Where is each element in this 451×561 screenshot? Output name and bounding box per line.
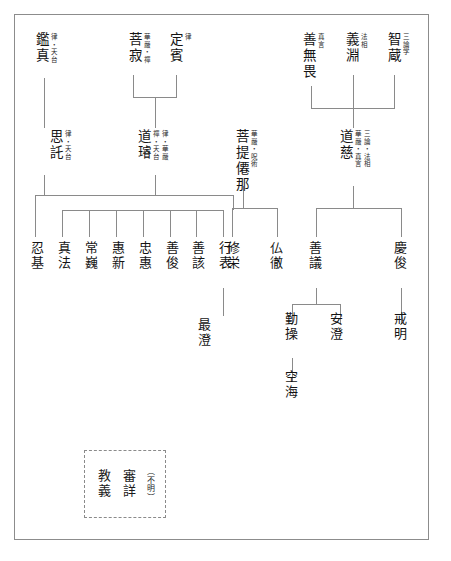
node-kaimyo: 戒明 — [392, 312, 407, 342]
drop-shuei — [232, 208, 233, 237]
node-annotations-ganjin: 律・天台 — [49, 32, 57, 63]
node-dosen: 道璿禪・天台律・華嚴 — [135, 129, 168, 161]
drop-zengi — [316, 208, 317, 237]
bus-doji — [316, 208, 401, 209]
node-annotation-bodaisenna-0: 華嚴・呪術 — [249, 130, 257, 168]
connector-bojaku-down — [133, 75, 134, 97]
bus-center-children — [62, 210, 196, 211]
node-name-jogi: 常巍 — [83, 241, 98, 271]
connector-merge-doji — [353, 108, 354, 128]
node-name-kukai: 空海 — [283, 370, 298, 400]
connector-ganjin-shitaku — [44, 78, 45, 128]
node-annotation-doji-1: 三論・法相 — [362, 130, 370, 168]
node-annotation-bojaku-0: 華嚴・禪 — [142, 33, 150, 63]
node-name-zengai: 善該 — [190, 241, 205, 271]
node-buttetsu: 仏徹 — [268, 241, 283, 271]
bus-zengai-gyohyo — [196, 210, 223, 211]
node-annotation-dosen-1: 律・華嚴 — [160, 130, 168, 160]
node-doji: 道慈華嚴・真言三論・法相 — [337, 129, 370, 168]
node-name-gien: 義淵 — [343, 32, 359, 64]
node-annotation-ganjin-0: 律・天台 — [49, 33, 57, 63]
node-bodaisenna: 菩提僊那華嚴・呪術 — [233, 129, 257, 193]
drop-buttetsu — [277, 208, 278, 237]
unknown-name-shinsho: 審詳 — [121, 469, 136, 499]
node-zengai: 善該 — [190, 241, 205, 271]
drop-zengai — [196, 210, 197, 237]
node-name-ancho: 安澄 — [328, 312, 343, 342]
node-chizo: 智蔵三論学 — [385, 32, 409, 64]
node-eshin: 惠新 — [110, 241, 125, 271]
node-shitaku: 思託律・天台 — [47, 129, 71, 161]
node-annotations-johin: 律 — [183, 32, 191, 41]
connector-doji-down — [353, 186, 354, 208]
drop-jogi — [89, 210, 90, 237]
drop-gyohyo — [223, 210, 224, 237]
diagram-page: 鑑真律・天台菩寂華嚴・禪定賓律善無畏真言義淵法相智蔵三論学思託律・天台道璿禪・天… — [0, 0, 451, 561]
node-ganjin: 鑑真律・天台 — [33, 32, 57, 64]
node-annotations-shitaku: 律・天台 — [63, 129, 71, 160]
node-name-shinpo: 真法 — [56, 241, 71, 271]
drop-keishun — [401, 208, 402, 237]
node-keishun: 慶俊 — [392, 241, 407, 271]
node-name-bodaisenna: 菩提僊那 — [233, 129, 249, 193]
bus-bodaisenna — [232, 208, 277, 209]
node-annotation-doji-0: 華嚴・真言 — [353, 130, 361, 168]
node-name-dosen: 道璿 — [135, 129, 151, 161]
node-gien: 義淵法相 — [343, 32, 367, 64]
drop-chue — [143, 210, 144, 237]
node-zenmui: 善無畏真言 — [300, 32, 324, 80]
node-annotation-shitaku-0: 律・天台 — [63, 130, 71, 160]
node-name-doji: 道慈 — [337, 129, 353, 161]
node-name-zenshun: 善俊 — [164, 241, 179, 271]
node-annotations-zenmui: 真言 — [316, 32, 324, 48]
node-gonso: 勤操 — [283, 312, 298, 342]
connector-gien-down — [353, 75, 354, 108]
node-zengi: 善議 — [307, 241, 322, 271]
node-ancho: 安澄 — [328, 312, 343, 342]
bus-zengi-children — [292, 304, 340, 305]
node-annotations-chizo: 三論学 — [401, 32, 409, 56]
node-jogi: 常巍 — [83, 241, 98, 271]
node-name-chue: 忠惠 — [137, 241, 152, 271]
node-kukai: 空海 — [283, 370, 298, 400]
node-name-ganjin: 鑑真 — [33, 32, 49, 64]
node-zenshun: 善俊 — [164, 241, 179, 271]
node-name-zengi: 善議 — [307, 241, 322, 271]
node-annotations-dosen: 禪・天台律・華嚴 — [151, 129, 168, 160]
unknown-note: （不明） — [145, 467, 155, 501]
connector-bus-ninki — [35, 195, 36, 237]
connector-merge-dosen — [155, 97, 156, 128]
node-annotation-gien-0: 法相 — [359, 33, 367, 48]
drop-eshin — [116, 210, 117, 237]
node-name-johin: 定賓 — [167, 32, 183, 64]
node-name-zenmui: 善無畏 — [300, 32, 316, 80]
node-annotation-johin-0: 律 — [183, 33, 191, 41]
node-name-kaimyo: 戒明 — [392, 312, 407, 342]
connector-johin-down — [176, 75, 177, 97]
node-annotation-dosen-0: 禪・天台 — [151, 130, 159, 160]
node-name-bojaku: 菩寂 — [126, 32, 142, 64]
node-name-eshin: 惠新 — [110, 241, 125, 271]
node-annotation-chizo-0: 三論学 — [401, 33, 409, 56]
node-shuei: 修栄 — [225, 241, 240, 271]
node-name-saicho: 最澄 — [196, 318, 211, 348]
node-annotations-bojaku: 華嚴・禪 — [142, 32, 150, 63]
node-bojaku: 菩寂華嚴・禪 — [126, 32, 150, 64]
unknown-name-kyogi: 教義 — [96, 469, 111, 499]
node-annotations-doji: 華嚴・真言三論・法相 — [353, 129, 370, 168]
connector-dosen-down — [155, 175, 156, 195]
node-johin: 定賓律 — [167, 32, 191, 64]
connector-chizo-down — [394, 75, 395, 108]
node-annotations-gien: 法相 — [359, 32, 367, 48]
connector-zengi-down — [316, 288, 317, 304]
node-name-buttetsu: 仏徹 — [268, 241, 283, 271]
node-annotations-bodaisenna: 華嚴・呪術 — [249, 129, 257, 168]
node-chue: 忠惠 — [137, 241, 152, 271]
node-name-ninki: 忍基 — [29, 241, 44, 271]
drop-shinpo — [62, 210, 63, 237]
unknown-lineage-box: 教義 審詳 （不明） — [84, 450, 166, 518]
node-annotation-zenmui-0: 真言 — [316, 33, 324, 48]
node-name-keishun: 慶俊 — [392, 241, 407, 271]
drop-zenshun — [170, 210, 171, 237]
bus-dosen — [118, 195, 233, 196]
